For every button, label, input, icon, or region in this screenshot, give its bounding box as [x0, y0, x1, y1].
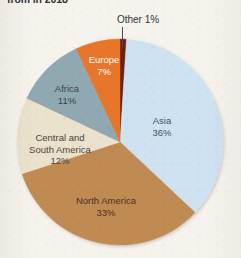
pie-chart-figure: from in 2018 Other 1% Asia 36% Nor [0, 0, 241, 258]
pie-svg [0, 0, 241, 258]
page-title: from in 2018 [7, 0, 157, 7]
leader-line-other [122, 27, 123, 47]
pie-slices-group [17, 39, 223, 245]
pie-chart-graphic [0, 0, 241, 258]
